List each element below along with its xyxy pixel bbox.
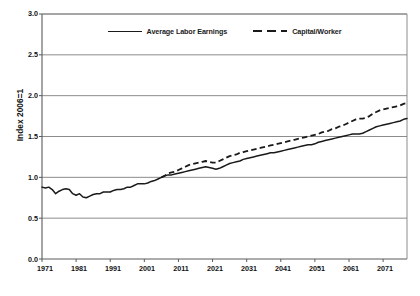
gridlines <box>42 14 407 218</box>
legend-label-average-labor-earnings: Average Labor Earnings <box>147 27 228 36</box>
plot-area <box>0 0 420 296</box>
legend: Average Labor Earnings Capital/Worker <box>42 22 407 40</box>
legend-item-capital-per-worker: Capital/Worker <box>253 27 341 36</box>
legend-label-capital-per-worker: Capital/Worker <box>292 27 341 36</box>
series-line-capital-per-worker <box>161 103 407 177</box>
legend-line-solid-icon <box>108 27 142 36</box>
legend-item-average-labor-earnings: Average Labor Earnings <box>108 27 228 36</box>
series-line-average-labor-earnings <box>42 119 407 198</box>
legend-line-dashed-icon <box>253 27 287 36</box>
chart-container: Index 2006=1 0.0 0.5 1.0 1.5 2.0 2.5 3.0… <box>0 0 420 296</box>
